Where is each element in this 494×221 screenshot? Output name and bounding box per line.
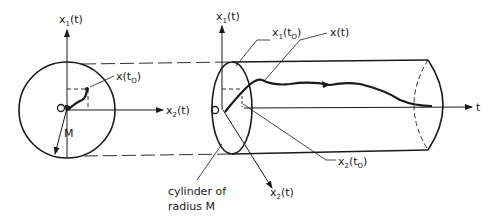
connector-bottom	[84, 154, 232, 156]
point-x-t0	[85, 87, 89, 91]
label-x-t: x(t)	[330, 26, 349, 39]
cylinder-top-edge	[232, 60, 428, 62]
leader-cylinder	[197, 144, 222, 180]
t-axis	[244, 107, 472, 108]
trajectory-arrowhead	[322, 81, 330, 88]
cylinder-caption-line1: cylinder of	[168, 185, 227, 198]
cross-section-view	[19, 30, 163, 158]
origin-marker-left	[58, 105, 65, 112]
label-t-axis: t	[476, 101, 481, 114]
cylinder-view	[197, 26, 472, 188]
label-x-t0: x(tO)	[116, 70, 141, 85]
label-x2-t0: x2(tO)	[338, 155, 367, 170]
connector-top	[82, 62, 232, 64]
cylinder-bottom-edge	[232, 150, 428, 154]
label-x1-right: x1(t)	[216, 10, 240, 25]
x2-axis-right	[223, 110, 272, 188]
label-x1-left: x1(t)	[59, 13, 83, 28]
label-x2-left: x2(t)	[166, 104, 190, 119]
radius-label: M	[64, 127, 74, 140]
label-x2-right: x2(t)	[270, 186, 294, 201]
label-x1-t0: x1(tO)	[272, 26, 301, 41]
cylinder-caption-line2: radius M	[168, 200, 215, 213]
trajectory-projection	[68, 90, 87, 110]
bounded-trajectory-diagram: x1(t) x2(t) x(tO) O M x1(t) x1(tO) x(t) …	[0, 0, 494, 221]
